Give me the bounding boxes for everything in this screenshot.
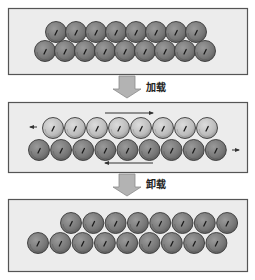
panel-unloaded	[9, 200, 248, 272]
atom	[50, 233, 71, 254]
bottom-row	[28, 233, 227, 254]
atom	[175, 118, 196, 139]
atom	[87, 118, 108, 139]
atom	[94, 233, 115, 254]
atom	[28, 233, 49, 254]
atom	[55, 41, 76, 62]
atom	[73, 140, 94, 161]
atom	[95, 140, 116, 161]
atom	[75, 41, 96, 62]
atom	[186, 22, 207, 43]
atom	[166, 22, 187, 43]
atom	[86, 22, 107, 43]
atom	[139, 140, 160, 161]
unloading-arrow-icon	[113, 174, 141, 196]
atom	[66, 22, 87, 43]
atom	[172, 213, 193, 234]
atom	[65, 118, 86, 139]
bottom-row	[35, 41, 216, 62]
atom	[139, 233, 160, 254]
atom	[46, 22, 67, 43]
loading-arrow-icon	[113, 76, 141, 98]
atom	[195, 41, 216, 62]
atom	[43, 118, 64, 139]
atom	[217, 213, 238, 234]
bottom-row	[29, 140, 227, 161]
atom	[29, 140, 50, 161]
atom	[109, 118, 130, 139]
atom	[105, 213, 126, 234]
atom	[206, 233, 227, 254]
atom	[83, 213, 104, 234]
atom	[131, 118, 152, 139]
atom	[155, 41, 176, 62]
atom	[175, 41, 196, 62]
diagram-canvas	[0, 0, 255, 280]
atom	[95, 41, 116, 62]
panel-loaded	[9, 103, 248, 173]
atom	[183, 140, 204, 161]
atom	[194, 213, 215, 234]
atom	[184, 233, 205, 254]
atom	[161, 140, 182, 161]
atom	[117, 140, 138, 161]
atom	[150, 213, 171, 234]
loading-label: 加载	[146, 79, 166, 94]
atom	[146, 22, 167, 43]
atom	[127, 213, 148, 234]
atom	[126, 22, 147, 43]
atom	[35, 41, 56, 62]
atom	[153, 118, 174, 139]
panel-initial	[9, 9, 248, 75]
atom	[197, 118, 218, 139]
atom	[61, 213, 82, 234]
atom	[135, 41, 156, 62]
atom	[106, 22, 127, 43]
atom	[117, 233, 138, 254]
atom	[72, 233, 93, 254]
unloading-label: 卸载	[146, 176, 166, 191]
atom	[115, 41, 136, 62]
atom	[161, 233, 182, 254]
atom	[205, 140, 226, 161]
atom	[51, 140, 72, 161]
